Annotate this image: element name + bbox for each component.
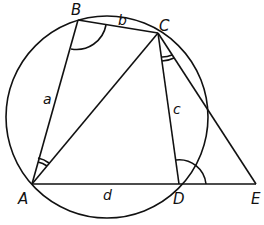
- side-label-d: d: [103, 187, 112, 203]
- point-label-b: B: [71, 1, 81, 19]
- angle-mark-c: [162, 55, 172, 57]
- point-label-d: D: [173, 190, 185, 208]
- side-label-b: b: [118, 12, 127, 28]
- angle-mark-c-2: [162, 58, 174, 61]
- angle-mark-a-2: [38, 162, 47, 166]
- point-label-a: A: [17, 190, 28, 208]
- diagonal-ac: [32, 33, 158, 184]
- side-label-c: c: [173, 101, 181, 117]
- cyclic-quadrilateral-diagram: B C A D E a b c d: [0, 0, 264, 225]
- side-ab: [32, 20, 78, 184]
- side-label-a: a: [43, 91, 52, 107]
- point-label-e: E: [251, 190, 261, 208]
- point-label-c: C: [159, 17, 170, 35]
